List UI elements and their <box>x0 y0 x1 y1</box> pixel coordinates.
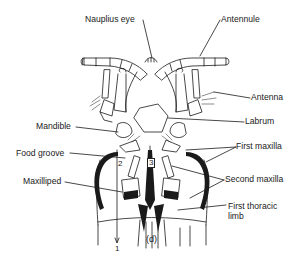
label-antennule: Antennule <box>221 15 260 24</box>
label-food-groove: Food groove <box>16 149 64 158</box>
flow-marker-2: 2 <box>118 160 122 168</box>
mandible-left <box>116 122 132 137</box>
flow-marker-1: 1 <box>115 245 119 253</box>
setae-arc-left <box>94 152 118 210</box>
label-nauplius-eye: Nauplius eye <box>85 15 135 24</box>
label-first-thoracic-limb-line2: limb <box>228 212 244 221</box>
label-mandible: Mandible <box>36 122 71 131</box>
antenna-right <box>188 70 202 116</box>
labrum <box>134 104 168 132</box>
label-second-maxilla: Second maxilla <box>225 175 283 184</box>
mandible-right <box>170 122 186 137</box>
label-labrum: Labrum <box>245 117 274 126</box>
nauplius-eye <box>145 58 157 63</box>
crustacean-diagram: Nauplius eye Antennule Antenna Labrum Ma… <box>0 0 302 257</box>
label-first-maxilla: First maxilla <box>236 142 282 151</box>
label-first-thoracic-limb: First thoracic <box>228 202 277 211</box>
flow-marker-3: 3 <box>147 158 155 168</box>
figure-caption: (d) <box>146 234 157 244</box>
setae-arc-right <box>186 152 210 210</box>
antenna-left <box>100 70 114 122</box>
label-antenna: Antenna <box>251 93 283 102</box>
antennule-left <box>84 58 147 80</box>
label-maxilliped: Maxilliped <box>23 177 61 186</box>
